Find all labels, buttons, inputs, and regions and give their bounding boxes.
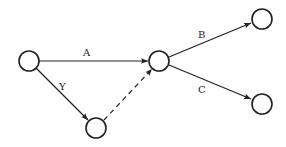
edge-y: [36, 68, 88, 120]
node-bottom: [86, 118, 106, 138]
edge-label-a: A: [82, 47, 91, 58]
network-diagram: A Y B C: [0, 0, 286, 147]
node-top-right: [252, 9, 272, 29]
edge-label-y: Y: [58, 81, 66, 92]
edge-label-c: C: [198, 84, 206, 95]
node-bottom-right: [252, 94, 272, 114]
edge-c: [169, 65, 251, 99]
edge-label-b: B: [198, 29, 205, 40]
edge-b: [169, 23, 251, 57]
node-start: [19, 51, 39, 71]
node-middle: [149, 51, 169, 71]
edge-dummy-dashed: [104, 69, 152, 120]
